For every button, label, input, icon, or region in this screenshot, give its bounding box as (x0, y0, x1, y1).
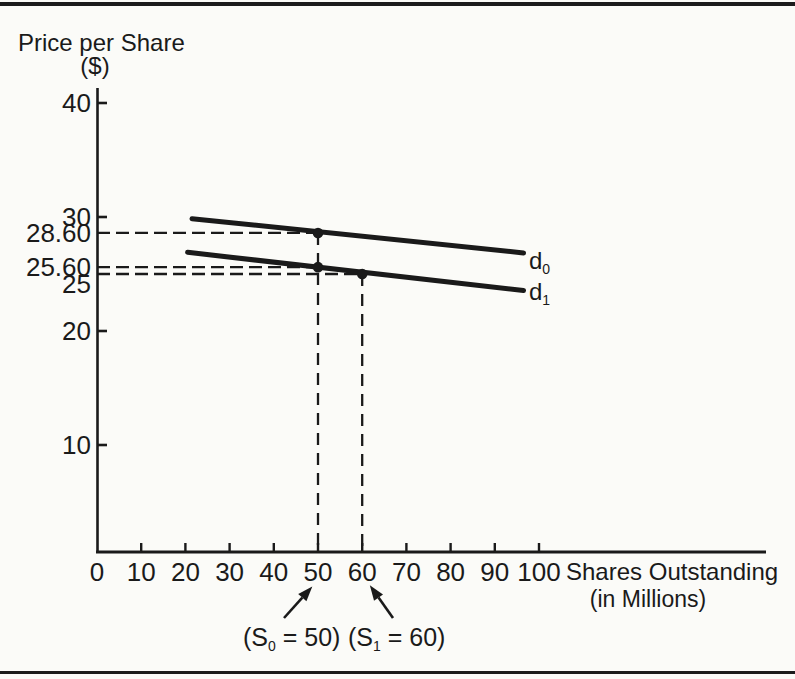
annotation-s0-post: = 50) (276, 623, 341, 651)
series-label-d0-main: d (529, 247, 542, 274)
annotation-s1-pre: (S (348, 623, 373, 651)
annotation-s1: (S1 = 60) (348, 624, 445, 650)
x-axis-units: (in Millions) (548, 587, 748, 611)
y-tick-label: 10 (0, 432, 91, 458)
annotation-arrow-shaft (284, 598, 302, 618)
series-label-d0-subscript: 0 (542, 261, 550, 277)
series-label-d0: d0 (529, 248, 550, 273)
y-tick-label: 20 (0, 318, 91, 344)
annotation-s0-pre: (S (243, 623, 268, 651)
series-label-d1-main: d (529, 278, 542, 305)
x-axis-title: Shares Outstanding (566, 559, 778, 584)
annotation-s1-subscript: 1 (373, 638, 381, 654)
y-guide-label: 28.60 (0, 220, 91, 246)
y-guide-label: 25 (0, 271, 91, 297)
marker-dot (357, 269, 368, 280)
series-label-d1: d1 (529, 279, 550, 304)
demand-line-d1 (188, 252, 524, 290)
annotation-arrow-head (370, 585, 383, 600)
annotation-s1-post: = 60) (381, 623, 446, 651)
annotation-s0: (S0 = 50) (243, 624, 340, 650)
annotation-arrow-shaft (379, 598, 393, 618)
bottom-rule (0, 671, 795, 674)
series-label-d1-subscript: 1 (542, 292, 550, 308)
marker-dot (313, 262, 324, 273)
y-tick-label: 40 (0, 90, 91, 116)
annotation-s0-subscript: 0 (268, 638, 276, 654)
x-tick-label: 100 (499, 559, 579, 585)
demand-line-d0 (192, 219, 524, 253)
marker-dot (313, 228, 324, 239)
figure: Price per Share ($) Shares Outstanding (… (0, 0, 795, 679)
